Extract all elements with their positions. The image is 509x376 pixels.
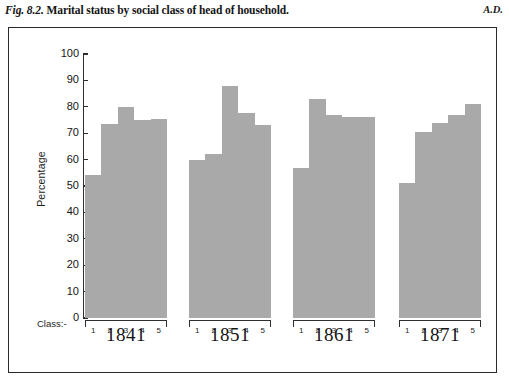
bar-1871-class-4[interactable] — [448, 115, 464, 318]
figure-number: Fig. 8.2. — [5, 4, 44, 16]
class-axis-line — [85, 320, 167, 321]
bar-group-1851 — [189, 54, 271, 318]
bar-group-1841 — [85, 54, 167, 318]
bar-1851-class-5[interactable] — [255, 125, 271, 318]
caption-side-note: A.D. — [483, 0, 509, 15]
class-axis-line — [399, 320, 481, 321]
bars — [189, 54, 271, 318]
y-axis-tick-label: 10 — [37, 286, 79, 297]
y-axis-tick-label: 90 — [37, 74, 79, 85]
bar-group-1871 — [399, 54, 481, 318]
year-label-1861: 1861 — [293, 324, 375, 346]
bars — [399, 54, 481, 318]
bar-1851-class-3[interactable] — [222, 86, 238, 318]
bar-1861-class-3[interactable] — [326, 115, 342, 318]
class-axis-line — [189, 320, 271, 321]
year-label-1871: 1871 — [399, 324, 481, 346]
y-axis-tick-label: 80 — [37, 101, 79, 112]
y-axis-tick-label: 20 — [37, 259, 79, 270]
bars — [85, 54, 167, 318]
bar-1861-class-1[interactable] — [293, 168, 309, 318]
bar-1861-class-2[interactable] — [309, 99, 325, 318]
y-axis-tick-label: 40 — [37, 206, 79, 217]
class-axis-caption: Class:- — [37, 318, 67, 329]
figure-frame: Percentage 0102030405060708090100 Class:… — [8, 27, 497, 373]
y-axis-tick-label: 30 — [37, 233, 79, 244]
year-label-1851: 1851 — [189, 324, 271, 346]
class-axis-line — [293, 320, 375, 321]
bar-1861-class-4[interactable] — [342, 117, 358, 318]
y-axis-tick-label: 100 — [37, 48, 79, 59]
bar-1851-class-2[interactable] — [205, 154, 221, 318]
figure-caption-text: Marital status by social class of head o… — [47, 4, 289, 16]
bar-1871-class-5[interactable] — [465, 104, 481, 318]
bar-1871-class-3[interactable] — [432, 123, 448, 318]
figure-caption: Fig. 8.2. Marital status by social class… — [0, 0, 289, 16]
bars — [293, 54, 375, 318]
y-axis-tick-label: 70 — [37, 127, 79, 138]
plot-area: Percentage 0102030405060708090100 Class:… — [9, 28, 496, 372]
bar-group-1861 — [293, 54, 375, 318]
year-label-1841: 1841 — [85, 324, 167, 346]
bar-1871-class-2[interactable] — [415, 132, 431, 318]
bar-1841-class-5[interactable] — [151, 119, 167, 318]
figure-caption-bar: Fig. 8.2. Marital status by social class… — [0, 0, 509, 24]
bar-1841-class-4[interactable] — [134, 120, 150, 318]
y-axis-tick-label: 50 — [37, 180, 79, 191]
bar-1871-class-1[interactable] — [399, 183, 415, 318]
bar-1841-class-3[interactable] — [118, 107, 134, 318]
bar-1861-class-5[interactable] — [359, 117, 375, 318]
y-axis-tick-label: 60 — [37, 154, 79, 165]
bar-1841-class-1[interactable] — [85, 175, 101, 318]
bar-1851-class-4[interactable] — [238, 113, 254, 318]
y-axis-label: Percentage — [35, 124, 47, 234]
bar-1851-class-1[interactable] — [189, 160, 205, 318]
bar-1841-class-2[interactable] — [101, 124, 117, 318]
